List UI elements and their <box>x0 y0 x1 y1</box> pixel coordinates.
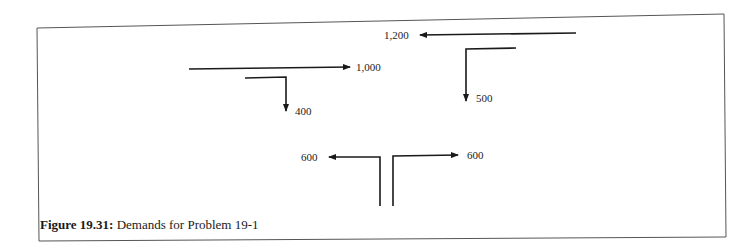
figure-number: Figure 19.31: <box>40 217 113 232</box>
arrow-through-east <box>189 67 350 69</box>
label-through-west: 1,200 <box>384 30 409 41</box>
label-through-east: 1,000 <box>356 62 381 73</box>
figure-caption: Figure 19.31: Demands for Problem 19-1 <box>40 217 259 233</box>
arrow-northbound-left-600 <box>329 157 380 206</box>
arrow-northbound-right-600 <box>393 155 458 206</box>
label-right-turn: 400 <box>295 106 312 117</box>
arrow-right-turn-400 <box>245 77 286 111</box>
label-left-turn: 500 <box>476 93 493 104</box>
label-northbound-left: 600 <box>301 152 318 163</box>
arrow-through-west <box>420 33 576 35</box>
diagram-canvas <box>0 0 748 243</box>
label-northbound-right: 600 <box>467 150 484 161</box>
figure-frame <box>37 14 726 241</box>
figure-caption-text: Demands for Problem 19-1 <box>117 217 259 232</box>
